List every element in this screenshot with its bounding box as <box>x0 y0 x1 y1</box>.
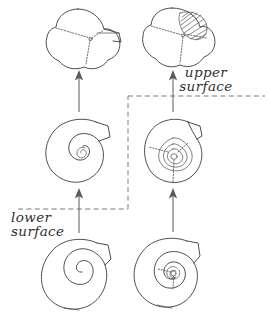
arrow-middle-right-to-top-right <box>169 70 177 112</box>
middle-left-outline <box>46 119 104 182</box>
dashed-guide-group <box>18 96 265 209</box>
top-left-suture-right <box>92 30 104 38</box>
specimen-top-left <box>46 9 121 69</box>
top-right-suture-down <box>180 37 183 63</box>
top-left-final-chamber <box>104 29 121 42</box>
bottom-right-proloculus <box>171 271 176 276</box>
specimen-middle-left <box>46 119 110 182</box>
bottom-right-aperture-notch <box>187 241 200 263</box>
middle-right-proloculus <box>171 154 177 160</box>
specimen-bottom-left <box>41 239 111 310</box>
specimen-bottom-right <box>134 238 200 308</box>
bottom-right-outline <box>134 238 197 307</box>
label-lower-surface: lower surface <box>11 209 64 239</box>
foraminifera-development-figure: upper surface lower surface <box>0 0 268 316</box>
specimen-top-right <box>143 8 215 67</box>
figure-canvas: upper surface lower surface <box>0 0 268 316</box>
top-left-outline <box>46 9 120 69</box>
arrow-middle-left-to-top-left <box>75 70 83 112</box>
middle-right-whorl-inner <box>167 149 182 164</box>
middle-left-aperture-notch <box>96 122 110 141</box>
middle-left-inner-spiral <box>77 147 86 157</box>
bottom-left-outline <box>41 239 106 309</box>
label-upper-surface: upper surface <box>179 64 232 94</box>
upper-surface-line2: surface <box>179 78 232 94</box>
specimen-middle-right <box>145 119 202 182</box>
top-left-suture-down <box>86 40 90 64</box>
arrow-bottom-left-to-middle-left <box>75 188 83 233</box>
arrow-bottom-right-to-middle-right <box>169 188 177 232</box>
bottom-left-aperture-notch <box>97 243 111 265</box>
top-left-umbilicus <box>89 37 92 40</box>
top-right-suture-left <box>151 26 182 35</box>
top-left-suture-left <box>56 28 90 38</box>
bottom-right-suture-left <box>158 269 171 272</box>
lower-surface-line2: surface <box>11 223 64 239</box>
